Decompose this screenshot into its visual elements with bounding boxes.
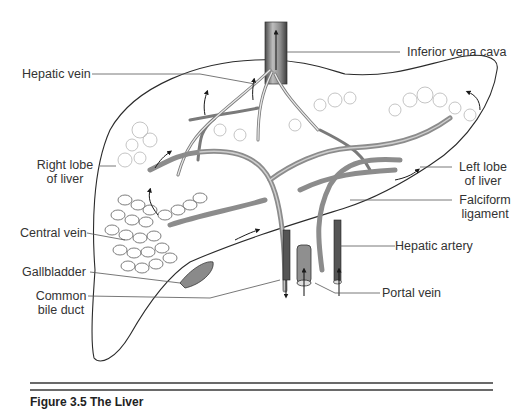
hepatic-vein-branches [178,70,370,175]
label-left-lobe-line2: of liver [452,174,514,188]
caption-rule-bottom [30,389,493,391]
label-right-lobe-line2: of liver [30,172,100,186]
label-hepatic-artery: Hepatic artery [395,239,473,253]
hilum-vessels [283,220,342,296]
label-left-lobe-line1: Left lobe [452,160,514,174]
label-falciform-line1: Falciform [452,193,518,207]
label-falciform-line2: ligament [452,207,518,221]
label-right-lobe-line1: Right lobe [30,158,100,172]
lobules [118,87,476,167]
label-common-bile-duct: Common bile duct [33,289,89,317]
label-common-bile-line2: bile duct [33,303,89,317]
caption-rule-top [30,382,493,384]
label-left-lobe: Left lobe of liver [452,160,514,188]
label-right-lobe: Right lobe of liver [30,158,100,186]
label-hepatic-vein: Hepatic vein [22,67,91,81]
label-portal-vein: Portal vein [382,286,441,300]
label-falciform-ligament: Falciform ligament [452,193,518,221]
label-common-bile-line1: Common [33,289,89,303]
label-gallbladder: Gallbladder [22,265,86,279]
label-central-vein: Central vein [20,226,87,240]
figure-caption: Figure 3.5 The Liver [30,395,143,409]
label-inferior-vena-cava: Inferior vena cava [407,45,506,59]
